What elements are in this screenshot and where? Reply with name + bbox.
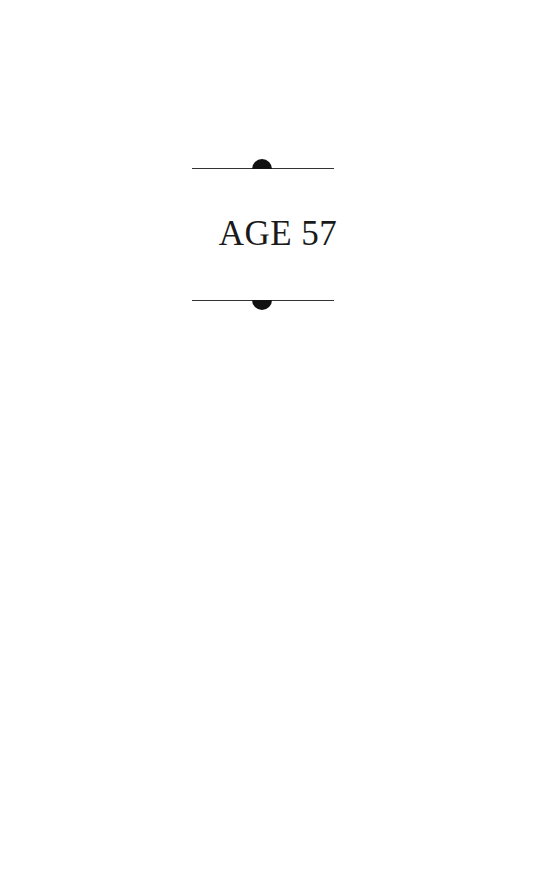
page-title: AGE 57 [0,214,556,254]
bottom-semicircle-icon [252,300,272,310]
top-semicircle-icon [252,159,272,169]
